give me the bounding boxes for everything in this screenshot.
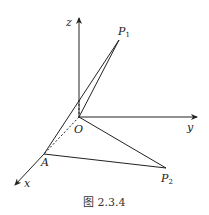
z-label: z	[65, 16, 72, 29]
point-p1-label: P1	[117, 25, 130, 39]
diagram: z y x O A P1 P2 图 2.3.4	[0, 0, 209, 215]
segment-O-P1	[79, 40, 119, 117]
point-a-label: A	[40, 156, 49, 169]
point-p2-label: P2	[160, 172, 173, 186]
x-label: x	[24, 177, 31, 190]
y-label: y	[186, 121, 194, 134]
segment-A-P1	[44, 40, 119, 154]
origin-label: O	[74, 123, 83, 136]
segment-O-P2	[79, 117, 166, 168]
figure-caption: 图 2.3.4	[83, 196, 126, 209]
segment-A-P2	[44, 154, 166, 168]
